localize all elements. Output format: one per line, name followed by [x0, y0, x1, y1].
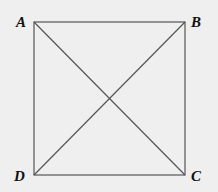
square-diagram: A B C D	[0, 0, 218, 192]
vertex-label-b: B	[190, 14, 201, 30]
vertex-label-c: C	[191, 168, 202, 184]
vertex-label-a: A	[15, 14, 26, 30]
vertex-label-d: D	[13, 168, 25, 184]
